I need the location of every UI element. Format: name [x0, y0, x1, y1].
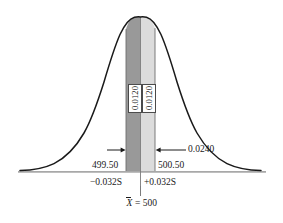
normal-curve-figure: 0.0120 0.0120 0.0240 499.50 500.50 −0.03…	[0, 0, 283, 223]
mean-equals-sign: =	[133, 198, 143, 208]
mean-value: 500	[143, 198, 157, 208]
lower-bound-z-label: −0.032S	[90, 178, 122, 188]
lower-bound-value-label: 499.50	[92, 161, 118, 171]
mean-symbol: X	[126, 198, 133, 208]
upper-bound-value-label: 500.50	[158, 161, 184, 171]
mean-label: X = 500	[0, 199, 283, 209]
upper-bound-z-label: +0.032S	[144, 178, 176, 188]
band-left-area-label: 0.0120	[128, 84, 142, 113]
band-right-area-label: 0.0120	[142, 84, 156, 113]
total-area-label: 0.0240	[188, 145, 214, 155]
total-area-arrow-right-head	[156, 148, 161, 153]
total-area-arrow-left-head	[121, 148, 126, 153]
